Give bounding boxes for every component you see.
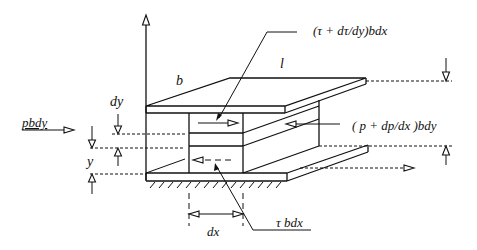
shear-bottom-label: τ bdx xyxy=(276,215,303,230)
y-axis xyxy=(143,15,150,180)
width-b-label: b xyxy=(176,73,183,88)
bottom-plate xyxy=(146,145,452,181)
top-plate xyxy=(146,78,452,113)
fluid-element-diagram: ( p + dp/dx )bdy (τ + dτ/dy)bdx τ bdx dx… xyxy=(0,0,477,250)
y-dimension xyxy=(89,126,147,194)
length-l-label: l xyxy=(280,56,284,71)
pressure-right-label: ( p + dp/dx )bdy xyxy=(352,118,437,133)
dy-label: dy xyxy=(110,94,124,109)
fluid-element xyxy=(146,100,319,173)
dy-dimension xyxy=(90,114,185,166)
lower-layer-arrow xyxy=(193,157,232,163)
ground-hatching xyxy=(150,182,281,188)
shear-top-label: (τ + dτ/dy)bdx xyxy=(313,23,388,38)
pressure-right-arrow xyxy=(286,121,340,127)
top-plate-marker xyxy=(443,58,450,81)
bottom-plate-marker xyxy=(443,146,450,165)
pressure-left-label: pbdy xyxy=(21,115,48,130)
dx-label: dx xyxy=(207,224,220,239)
y-label: y xyxy=(85,154,94,169)
upper-layer-arrow xyxy=(198,120,238,126)
